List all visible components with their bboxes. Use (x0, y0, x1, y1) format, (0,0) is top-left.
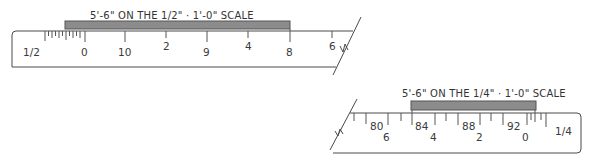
ruler1-measure-bar (65, 21, 290, 29)
ruler1-label-4: 4 (245, 40, 252, 52)
ruler2-label-80: 80 (370, 120, 383, 132)
ruler1-label-2: 2 (163, 40, 170, 52)
ruler2-measure-bar (411, 101, 536, 110)
ruler1-scale-label: 1/2 (23, 46, 40, 58)
ruler1-label-10: 10 (118, 46, 131, 58)
ruler2-label-84: 84 (415, 120, 429, 132)
ruler2-break-symbol-icon (335, 129, 343, 136)
ruler2-label-88: 88 (462, 120, 475, 132)
ruler1-zero-label: 0 (81, 46, 88, 58)
ruler2-label-4: 4 (430, 131, 437, 143)
ruler-quarter-inch-scale: 5'-6" ON THE 1/4" · 1'-0" SCALE 80 (330, 88, 581, 153)
ruler2-caption: 5'-6" ON THE 1/4" · 1'-0" SCALE (402, 88, 566, 99)
ruler1-break-line (333, 17, 361, 75)
ruler1-label-9: 9 (203, 46, 210, 58)
ruler2-body-outline (333, 113, 581, 153)
ruler1-caption: 5'-6" ON THE 1/2" · 1'-0" SCALE (90, 10, 254, 21)
ruler1-fine-ticks (45, 31, 85, 42)
ruler2-label-0: 0 (522, 131, 529, 143)
ruler2-break-line (330, 99, 357, 150)
ruler2-label-2: 2 (476, 131, 483, 143)
ruler1-label-8: 8 (286, 46, 293, 58)
ruler2-label-92: 92 (507, 120, 520, 132)
ruler-half-inch-scale: 5'-6" ON THE 1/2" · 1'-0" SCALE (12, 10, 361, 75)
ruler1-break-symbol-icon (340, 44, 348, 52)
scale-diagram: 5'-6" ON THE 1/2" · 1'-0" SCALE (0, 0, 593, 167)
ruler2-scale-label: 1/4 (555, 125, 572, 137)
ruler1-label-6: 6 (329, 40, 336, 52)
ruler2-label-6: 6 (383, 131, 390, 143)
ruler1-body-outline (12, 31, 353, 67)
